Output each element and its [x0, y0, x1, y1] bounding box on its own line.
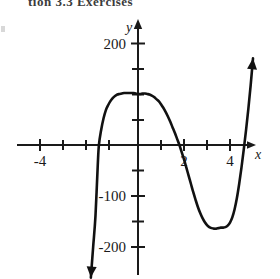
- x-tick-label--4: -4: [34, 153, 47, 169]
- graph-figure: -4 2 4 200 -100 -200 y x: [0, 0, 280, 279]
- x-tick-label-4: 4: [226, 153, 234, 169]
- curve-right-arrowhead: [247, 58, 257, 69]
- y-tick-label--100: -100: [99, 188, 127, 204]
- curve-left-arrowhead: [87, 266, 97, 277]
- y-tick-label-200: 200: [104, 36, 127, 52]
- x-axis-label: x: [254, 147, 262, 162]
- y-axis-arrowhead: [134, 19, 142, 29]
- y-tick-label--200: -200: [99, 239, 127, 255]
- y-axis-label: y: [124, 20, 133, 35]
